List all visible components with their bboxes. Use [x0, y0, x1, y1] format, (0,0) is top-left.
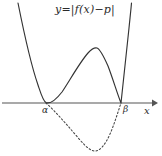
beta-root-label: β	[123, 105, 128, 114]
equation-label: y=|f(x)−p|	[55, 4, 115, 15]
math-figure: y=|f(x)−p| α β x	[0, 0, 162, 156]
x-axis-label: x	[144, 106, 150, 116]
solid-curve-path	[18, 3, 132, 103]
x-axis-arrow-icon	[152, 100, 158, 107]
function-graph-svg	[0, 0, 162, 156]
dashed-reflection-path	[46, 103, 121, 151]
alpha-root-label: α	[42, 106, 48, 115]
